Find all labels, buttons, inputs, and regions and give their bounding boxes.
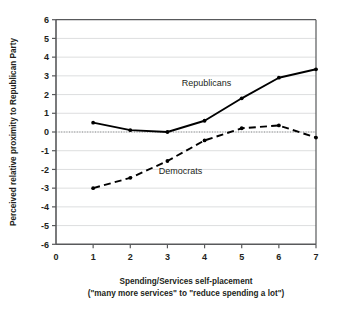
x-tick-label: 6 [276, 252, 281, 262]
chart-figure: -6-5-4-3-2-10123456 01234567 Republicans… [0, 0, 352, 318]
data-point [314, 67, 318, 71]
data-point [277, 124, 281, 128]
x-tick-label: 7 [313, 252, 318, 262]
data-point [166, 130, 170, 134]
data-point [203, 119, 207, 123]
y-tick-label: 4 [44, 52, 49, 62]
y-tick-label: -4 [41, 202, 49, 212]
data-point [128, 176, 132, 180]
y-tick-label: -2 [41, 165, 49, 175]
x-tick-label: 2 [128, 252, 133, 262]
data-point [277, 76, 281, 80]
y-tick-label: 5 [44, 34, 49, 44]
y-tick-label: 2 [44, 90, 49, 100]
y-tick-label: -5 [41, 221, 49, 231]
y-axis-title: Perceived relative proximity to Republic… [9, 38, 18, 226]
y-tick-label: -3 [41, 183, 49, 193]
y-tick-label: 1 [44, 108, 49, 118]
x-tick-label: 5 [239, 252, 244, 262]
data-point [128, 128, 132, 132]
y-tick-label: 6 [44, 15, 49, 25]
data-point [314, 136, 318, 140]
y-tick-label: 0 [44, 127, 49, 137]
y-tick-label: 3 [44, 71, 49, 81]
x-axis-subtitle: ("many more services" to "reduce spendin… [88, 289, 285, 298]
chart-background [0, 0, 352, 318]
x-axis-title: Spending/Services self-placement [120, 277, 253, 286]
data-point [166, 159, 170, 163]
x-tick-label: 3 [165, 252, 170, 262]
data-point [91, 186, 95, 190]
x-tick-label: 1 [91, 252, 96, 262]
data-point [240, 96, 244, 100]
x-tick-label: 4 [202, 252, 207, 262]
data-point [203, 139, 207, 143]
x-tick-label: 0 [53, 252, 58, 262]
y-tick-label: -6 [41, 240, 49, 250]
line-chart: -6-5-4-3-2-10123456 01234567 Republicans… [0, 0, 352, 318]
data-point [240, 126, 244, 130]
series-label-republicans: Republicans [182, 78, 232, 88]
y-tick-label: -1 [41, 146, 49, 156]
series-label-democrats: Democrats [159, 166, 203, 176]
data-point [91, 121, 95, 125]
